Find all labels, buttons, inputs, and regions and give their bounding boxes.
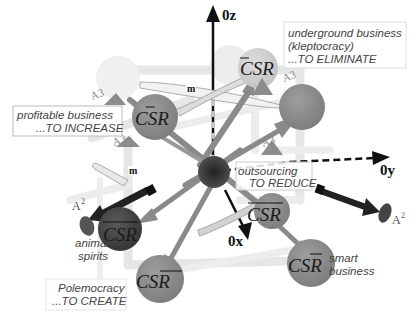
axis-label-z: 0z	[222, 7, 237, 23]
svg-text:2: 2	[81, 197, 85, 206]
caption-business: business	[329, 265, 375, 277]
axis-label-y: 0y	[380, 162, 396, 178]
m-label-left: m	[129, 165, 138, 176]
svg-text:Polemocracy: Polemocracy	[58, 282, 126, 294]
svg-text:...TO CREATE: ...TO CREATE	[52, 295, 127, 307]
csr-cube-diagram: CSR CSR CSR CSR CSR CSR A3 A3 A	[0, 0, 418, 316]
caption-smart: smart	[329, 252, 359, 264]
caption-spirits: spirits	[78, 250, 108, 262]
svg-text:...TO ELIMINATE: ...TO ELIMINATE	[288, 53, 377, 65]
svg-text:A: A	[392, 213, 401, 227]
svg-text:profitable business: profitable business	[16, 109, 113, 121]
origin-node	[198, 156, 230, 188]
node-right	[279, 84, 325, 130]
svg-text:(kleptocracy): (kleptocracy)	[288, 40, 354, 52]
node-smart-business: CSR	[287, 239, 335, 287]
svg-text:CSR: CSR	[136, 271, 170, 292]
svg-text:CSR: CSR	[288, 255, 322, 276]
svg-text:TO REDUCE: TO REDUCE	[249, 177, 317, 189]
svg-text:CSR: CSR	[135, 108, 169, 129]
svg-text:...TO INCREASE: ...TO INCREASE	[36, 122, 124, 134]
svg-text:outsourcing: outsourcing	[238, 165, 298, 177]
node-bottom-left: CSR	[136, 255, 184, 303]
caption-animal: animal	[75, 237, 109, 249]
svg-text:2: 2	[401, 211, 405, 220]
a2-label-left: A 2	[72, 197, 85, 213]
svg-text:CSR: CSR	[247, 204, 281, 225]
node-top-right: CSR	[238, 48, 278, 88]
box-underground-business: underground business (kleptocracy) ...TO…	[284, 22, 406, 68]
box-profitable-business: profitable business ...TO INCREASE	[13, 106, 124, 136]
dark-arrow-right	[315, 184, 380, 216]
box-outsourcing: outsourcing TO REDUCE	[236, 162, 317, 190]
svg-text:CSR: CSR	[240, 58, 274, 79]
svg-text:underground business: underground business	[288, 27, 402, 39]
axis-label-x: 0x	[228, 233, 244, 249]
m-label-top: m	[187, 83, 196, 94]
svg-text:A: A	[72, 199, 81, 213]
node-left: CSR	[132, 94, 178, 140]
box-polemocracy: Polemocracy ...TO CREATE	[46, 279, 127, 310]
a2-label-right: A 2	[392, 211, 405, 227]
